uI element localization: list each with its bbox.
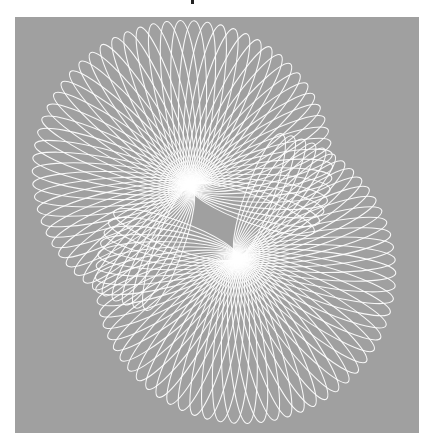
spirograph-panel [15, 17, 419, 433]
upper-left-rosette [30, 19, 335, 314]
lower-right-rosette [93, 129, 398, 424]
spirograph-drawing [15, 17, 419, 433]
top-mark [191, 0, 194, 4]
